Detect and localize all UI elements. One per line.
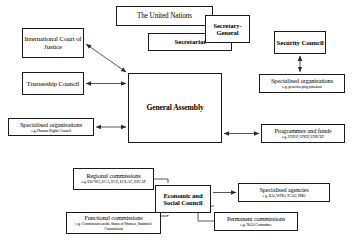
node-title: Trusteeship Council <box>27 80 80 88</box>
connector-functional-ecosoc <box>161 215 168 216</box>
node-regional-commissions[interactable]: Regional commissions e.g. ESCWA, ECA, EC… <box>73 168 154 190</box>
node-title: Secretary-General <box>206 22 249 37</box>
node-programmes-and-funds[interactable]: Programmes and funds e.g. UNDP, UNEP, UN… <box>261 124 345 143</box>
node-united-nations[interactable]: The United Nations <box>116 6 213 26</box>
node-title: Economic and Social Council <box>156 192 210 207</box>
connector-icj-general-assembly <box>86 44 126 72</box>
node-subtitle: e.g. peacekeeping missions <box>282 85 321 90</box>
node-specialised-agencies[interactable]: Specialised agencies e.g. ILO, WHO, ICAO… <box>238 183 330 202</box>
node-title: General Assembly <box>146 104 203 113</box>
node-permanent-commissions[interactable]: Permanent commissions e.g. NGO Committee <box>214 212 298 231</box>
node-title: Security Council <box>277 39 324 47</box>
node-general-assembly[interactable]: General Assembly <box>128 73 222 143</box>
node-subtitle: e.g. Human Rights Council <box>31 129 71 134</box>
node-subtitle: e.g. ILO, WHO, ICAO, IMO <box>263 194 306 199</box>
node-title: The United Nations <box>137 12 192 20</box>
node-subtitle: e.g. ESCWA, ECA, ECE, ECLAC, ESCAP <box>81 180 145 185</box>
node-international-court-of-justice[interactable]: International Court of Justice <box>22 28 84 58</box>
node-title: International Court of Justice <box>23 35 83 50</box>
node-functional-commissions[interactable]: Functional commissions e.g. Commission o… <box>66 212 161 234</box>
node-subtitle: e.g. Commission on the Status of Women, … <box>67 222 160 231</box>
node-subtitle: e.g. UNDP, UNEP, UNICEF <box>282 135 324 140</box>
node-specialised-organisations-human-rights[interactable]: Specialised organisations e.g. Human Rig… <box>8 118 94 136</box>
node-specialised-organisations-peacekeeping[interactable]: Specialised organisations e.g. peacekeep… <box>259 74 345 93</box>
node-subtitle: e.g. NGO Committee <box>240 223 271 228</box>
node-security-council[interactable]: Security Council <box>274 31 326 54</box>
node-trusteeship-council[interactable]: Trusteeship Council <box>22 72 84 95</box>
node-economic-and-social-council[interactable]: Economic and Social Council <box>155 185 211 213</box>
node-title: Specialised organisations <box>20 121 82 128</box>
connector-regional-ecosoc <box>154 179 168 183</box>
connector-ecosoc-permanent-drop <box>198 213 214 221</box>
node-title: Secretariat <box>175 38 206 46</box>
node-secretary-general[interactable]: Secretary-General <box>205 15 250 43</box>
